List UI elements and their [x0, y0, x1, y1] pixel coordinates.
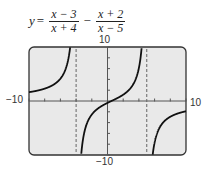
graph-screen	[0, 0, 214, 174]
